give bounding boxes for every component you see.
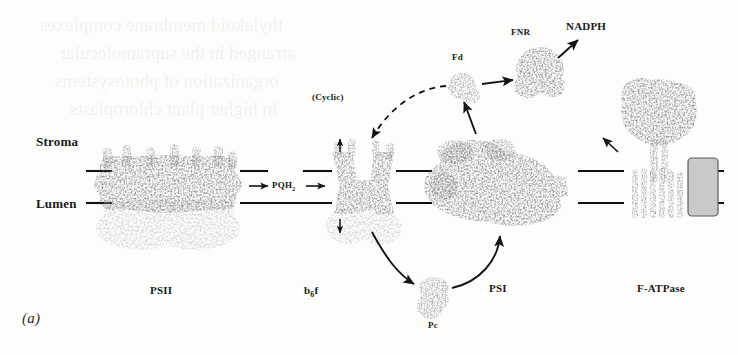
b6f-complex-structure: [326, 139, 402, 245]
fnr-label: FNR: [511, 27, 530, 37]
lumen-label: Lumen: [36, 196, 77, 212]
psi-label: PSI: [489, 282, 507, 294]
stroma-label: Stroma: [36, 134, 78, 150]
arrow-fd-to-fnr: [482, 80, 513, 84]
atpase-subunit-box: [688, 158, 718, 216]
panel-label: (a): [22, 310, 40, 327]
arrow-cyclic-fd-to-b6f: [372, 86, 446, 138]
pqh2-label-base: PQH: [272, 180, 292, 190]
b6f-label: b6f: [304, 284, 318, 299]
arrow-fnr-to-nadph: [558, 40, 578, 58]
fd-label: Fd: [452, 52, 463, 62]
psii-label: PSII: [150, 284, 172, 296]
psi-complex-structure: [424, 139, 568, 226]
psii-complex-structure: [94, 144, 242, 250]
ferredoxin-structure: [448, 73, 480, 104]
fnr-structure: [514, 47, 565, 98]
pqh2-label: PQH2: [272, 180, 296, 192]
f-atpase-structure: [621, 78, 718, 218]
figure-canvas: [0, 0, 738, 355]
photosynthesis-electron-transport-figure: thylakoid membrane complexes arranged in…: [0, 0, 738, 355]
arrow-proton-to-atpase: [603, 138, 618, 152]
cyclic-annotation-label: (Cyclic): [312, 92, 344, 102]
arrow-psi-to-fd: [464, 102, 476, 134]
b6f-label-tail: f: [314, 284, 318, 296]
pc-label: Pc: [428, 320, 438, 330]
nadph-label: NADPH: [566, 20, 606, 32]
plastocyanin-structure: [417, 277, 449, 319]
arrow-pc-to-psi: [452, 236, 500, 288]
pqh2-label-subscript: 2: [292, 185, 295, 192]
f-atpase-label: F-ATPase: [637, 282, 685, 294]
